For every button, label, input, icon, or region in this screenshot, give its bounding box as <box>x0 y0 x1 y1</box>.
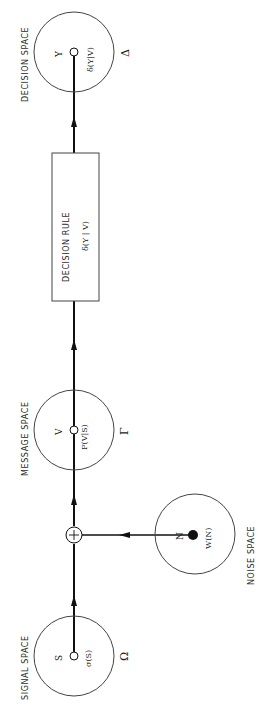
noise-vector-label: N <box>175 532 185 540</box>
decision-rule-box <box>52 153 99 301</box>
decision-vector-label: Y <box>54 50 64 58</box>
arrow-adder-to-message <box>71 494 77 505</box>
noise-point <box>188 530 198 540</box>
signal-vector-label: S <box>54 655 64 661</box>
message-point <box>70 426 78 434</box>
delta-symbol: Δ <box>119 49 132 57</box>
message-space-node: MESSAGE SPACE V F(V|S) Γ <box>21 390 131 476</box>
gamma-symbol: Γ <box>118 427 131 435</box>
message-vector-label: V <box>54 428 64 436</box>
adder-node <box>66 527 82 543</box>
decision-rule-function: δ(Y | V) <box>81 221 90 251</box>
noise-space-node: N W(N) NOISE SPACE <box>155 494 256 585</box>
signal-space-title: SIGNAL SPACE <box>21 635 30 700</box>
omega-symbol: Ω <box>118 652 131 661</box>
arrow-signal-to-adder <box>71 595 77 606</box>
arrow-noise-to-adder <box>119 532 130 538</box>
signal-point <box>70 652 78 660</box>
decision-space-node: DECISION SPACE Y δ(Y|V) Δ <box>21 12 132 102</box>
signal-space-node: SIGNAL SPACE S σ(S) Ω <box>21 616 131 700</box>
noise-density-label: W(N) <box>204 528 213 549</box>
decision-point <box>70 48 78 56</box>
main-signal-path <box>71 56 77 656</box>
decision-function-label: δ(Y|V) <box>86 47 95 72</box>
decision-space-title: DECISION SPACE <box>21 27 30 102</box>
decision-rule-title: DECISION RULE <box>62 212 71 282</box>
message-density-label: F(V|S) <box>80 424 89 450</box>
message-space-title: MESSAGE SPACE <box>21 401 30 476</box>
noise-space-title: NOISE SPACE <box>247 526 256 585</box>
signal-flow-diagram: SIGNAL SPACE S σ(S) Ω N W(N) NOISE SPACE… <box>0 0 262 725</box>
arrow-rule-to-decision <box>71 116 77 127</box>
arrow-message-to-rule <box>71 339 77 350</box>
signal-density-label: σ(S) <box>84 650 93 667</box>
decision-rule-node: DECISION RULE δ(Y | V) <box>52 153 99 301</box>
